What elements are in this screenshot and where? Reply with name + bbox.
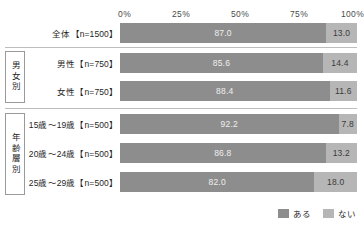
row-label-total: 全体【n=1500】 [52, 27, 118, 39]
bar-segment-nai-male: 14.4 [323, 53, 357, 73]
divider-after-gender [5, 108, 357, 109]
chart-legend: ある ない [0, 206, 364, 220]
divider-after-total [5, 47, 357, 48]
bar-age-15-19: 92.2 7.8 [120, 114, 357, 134]
bar-row-total: 全体【n=1500】 87.0 13.0 [0, 23, 364, 43]
bar-total: 87.0 13.0 [120, 23, 357, 43]
bar-segment-aru-male: 85.6 [120, 53, 323, 73]
bar-row-age-25-29: 25歳～29歳【n=500】 82.0 18.0 [0, 172, 364, 192]
legend-item-nai: ない [323, 207, 356, 219]
x-tick-4: 100% [341, 9, 364, 19]
x-tick-1: 25% [172, 9, 190, 19]
x-axis-tick-labels: 0% 25% 50% 75% 100% [0, 9, 364, 21]
legend-swatch-aru [278, 209, 289, 218]
legend-label-nai: ない [338, 207, 356, 219]
bar-row-female: 女性【n=750】 88.4 11.6 [0, 81, 364, 101]
bar-segment-nai-total: 13.0 [326, 23, 357, 43]
bar-segment-aru-total: 87.0 [120, 23, 326, 43]
x-tick-3: 75% [290, 9, 308, 19]
bar-segment-aru-age-20-24: 86.8 [120, 143, 326, 163]
row-label-age-20-24: 20歳～24歳【n=500】 [29, 147, 118, 159]
legend-item-aru: ある [278, 207, 311, 219]
bar-segment-aru-age-25-29: 82.0 [120, 172, 314, 192]
bar-row-age-20-24: 20歳～24歳【n=500】 86.8 13.2 [0, 143, 364, 163]
bar-age-25-29: 82.0 18.0 [120, 172, 357, 192]
bar-segment-nai-age-20-24: 13.2 [326, 143, 357, 163]
bar-row-male: 男性【n=750】 85.6 14.4 [0, 53, 364, 73]
x-tick-0: 0% [118, 9, 131, 19]
bar-row-age-15-19: 15歳～19歳【n=500】 92.2 7.8 [0, 114, 364, 134]
row-label-age-25-29: 25歳～29歳【n=500】 [29, 176, 118, 188]
bar-segment-nai-age-25-29: 18.0 [314, 172, 357, 192]
row-label-male: 男性【n=750】 [57, 57, 118, 69]
legend-label-aru: ある [293, 207, 311, 219]
row-label-female: 女性【n=750】 [57, 85, 118, 97]
row-label-age-15-19: 15歳～19歳【n=500】 [29, 118, 118, 130]
bar-segment-nai-female: 11.6 [330, 81, 357, 101]
bar-segment-aru-female: 88.4 [120, 81, 330, 101]
bar-segment-aru-age-15-19: 92.2 [120, 114, 339, 134]
x-tick-2: 50% [231, 9, 249, 19]
bar-age-20-24: 86.8 13.2 [120, 143, 357, 163]
bar-segment-nai-age-15-19: 7.8 [339, 114, 357, 134]
bar-female: 88.4 11.6 [120, 81, 357, 101]
legend-swatch-nai [323, 209, 334, 218]
bar-male: 85.6 14.4 [120, 53, 357, 73]
stacked-bar-chart: 0% 25% 50% 75% 100% 全体【n=1500】 87.0 13.0… [0, 0, 364, 227]
